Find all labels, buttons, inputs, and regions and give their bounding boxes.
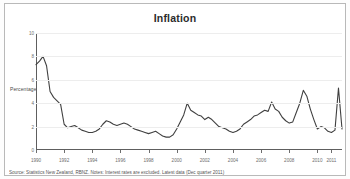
y-axis-tick-label: 6 — [31, 77, 34, 82]
x-axis-tick-mark — [177, 150, 178, 153]
y-axis-tick-label: 0 — [31, 148, 34, 153]
x-axis-tick-mark — [92, 150, 93, 153]
inflation-series-line — [36, 33, 342, 150]
plot-area: 0246810199019921994199619982000200220042… — [36, 33, 342, 150]
y-axis-tick-label: 2 — [31, 124, 34, 129]
gridline — [36, 33, 342, 34]
x-axis-tick-mark — [120, 150, 121, 153]
x-axis-tick-label: 2004 — [228, 158, 238, 163]
x-axis-tick-label: 2006 — [256, 158, 266, 163]
x-axis-tick-label: 2010 — [312, 158, 322, 163]
x-axis-tick-label: 1998 — [143, 158, 153, 163]
x-axis-tick-label: 2000 — [172, 158, 182, 163]
x-axis-tick-mark — [149, 150, 150, 153]
inflation-chart-figure: Inflation Percentage 0246810199019921994… — [0, 0, 350, 179]
x-axis-tick-label: 1992 — [59, 158, 69, 163]
x-axis-tick-mark — [261, 150, 262, 153]
gridline — [36, 127, 342, 128]
x-axis-tick-label: 1990 — [31, 158, 41, 163]
gridline — [36, 56, 342, 57]
gridline — [36, 103, 342, 104]
gridline — [36, 80, 342, 81]
chart-title: Inflation — [0, 12, 350, 24]
x-axis-tick-label: 1994 — [87, 158, 97, 163]
x-axis-tick-label: 2002 — [200, 158, 210, 163]
source-note: Source: Statistics New Zealand, RBNZ. No… — [9, 170, 342, 175]
x-axis-tick-mark — [36, 150, 37, 153]
x-axis-tick-mark — [289, 150, 290, 153]
x-axis-tick-label: 2008 — [284, 158, 294, 163]
y-axis-tick-label: 8 — [31, 54, 34, 59]
x-axis-tick-mark — [64, 150, 65, 153]
x-axis-tick-label: 1996 — [115, 158, 125, 163]
y-axis-tick-label: 4 — [31, 101, 34, 106]
y-axis-label: Percentage — [10, 86, 37, 92]
y-axis-tick-label: 10 — [29, 31, 34, 36]
x-axis-tick-mark — [317, 150, 318, 153]
x-axis-tick-mark — [331, 150, 332, 153]
x-axis-tick-label: 2011 — [326, 158, 336, 163]
x-axis-tick-mark — [205, 150, 206, 153]
x-axis-tick-mark — [233, 150, 234, 153]
